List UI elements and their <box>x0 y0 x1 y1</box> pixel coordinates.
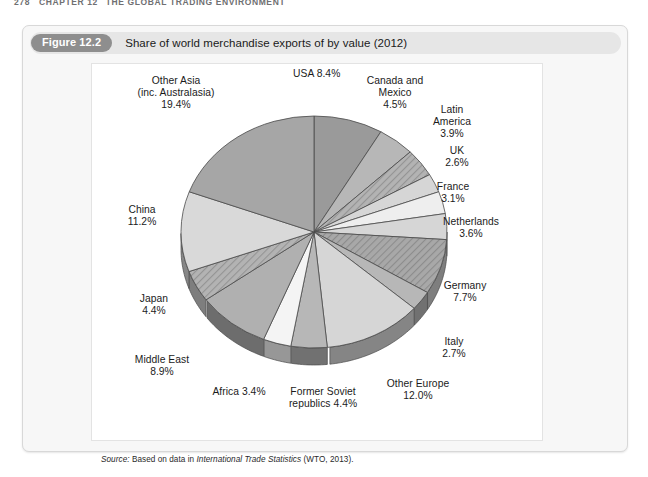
source-suffix: (WTO, 2013). <box>301 455 353 464</box>
source-title: International Trade Statistics <box>196 455 301 464</box>
chapter-number: CHAPTER 12 <box>39 0 98 7</box>
page-folio: 278 <box>14 0 30 7</box>
source-prefix: Based on data in <box>130 455 197 464</box>
running-head: 278 CHAPTER 12 THE GLOBAL TRADING ENVIRO… <box>14 0 285 7</box>
figure-card: Figure 12.2 Share of world merchandise e… <box>22 25 628 452</box>
source-label: Source: <box>101 455 130 464</box>
chart-plot-panel <box>91 63 543 441</box>
figure-caption-text: Share of world merchandise exports of by… <box>125 37 407 49</box>
source-note: Source: Based on data in International T… <box>101 455 354 464</box>
figure-caption-bar: Figure 12.2 Share of world merchandise e… <box>30 32 621 54</box>
figure-number-badge: Figure 12.2 <box>31 34 112 52</box>
chapter-title: THE GLOBAL TRADING ENVIRONMENT <box>106 0 285 7</box>
